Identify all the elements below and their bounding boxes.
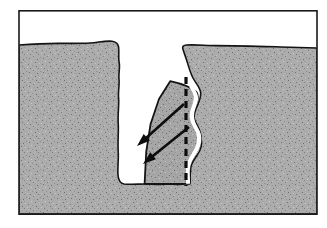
figure-root: Cross-section of a soil crevasse with de… (0, 0, 327, 228)
crevasse-cross-section-diagram (0, 0, 327, 228)
